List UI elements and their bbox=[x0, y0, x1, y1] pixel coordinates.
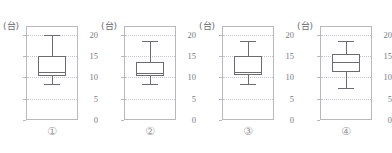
y-tick-label-15: 15 bbox=[370, 52, 392, 61]
panel-caption-2: ② bbox=[124, 126, 176, 137]
gridline-20 bbox=[125, 35, 175, 36]
y-tick-label-0: 0 bbox=[370, 116, 392, 125]
y-tick-label-15: 15 bbox=[174, 52, 196, 61]
min-cap-line bbox=[142, 84, 158, 85]
y-tick-label-0: 0 bbox=[174, 116, 196, 125]
y-tick-mark-0 bbox=[317, 120, 320, 121]
y-tick-mark-20 bbox=[317, 35, 320, 36]
y-tick-mark-10 bbox=[121, 77, 124, 78]
max-cap-line bbox=[338, 41, 354, 42]
y-tick-mark-10 bbox=[219, 77, 222, 78]
median-line bbox=[332, 62, 360, 63]
gridline-5 bbox=[125, 99, 175, 100]
y-tick-mark-5 bbox=[317, 99, 320, 100]
y-tick-mark-20 bbox=[121, 35, 124, 36]
y-tick-mark-10 bbox=[317, 77, 320, 78]
y-tick-mark-0 bbox=[219, 120, 222, 121]
panel-caption-3: ③ bbox=[222, 126, 274, 137]
y-tick-mark-20 bbox=[23, 35, 26, 36]
y-tick-label-20: 20 bbox=[370, 31, 392, 40]
y-axis-unit-label: (台) bbox=[297, 19, 313, 32]
boxplot-panel-1: (台)05101520① bbox=[0, 9, 98, 153]
y-tick-label-0: 0 bbox=[272, 116, 294, 125]
y-tick-label-10: 10 bbox=[174, 73, 196, 82]
lower-whisker-line bbox=[248, 75, 249, 84]
top-cut-text-strip bbox=[0, 0, 391, 9]
gridline-5 bbox=[321, 99, 371, 100]
median-line bbox=[136, 73, 164, 74]
y-tick-label-15: 15 bbox=[76, 52, 98, 61]
upper-whisker-line bbox=[52, 35, 53, 56]
iqr-box bbox=[136, 62, 164, 76]
y-tick-mark-15 bbox=[121, 56, 124, 57]
lower-whisker-line bbox=[346, 72, 347, 88]
median-line bbox=[38, 72, 66, 73]
y-tick-mark-10 bbox=[23, 77, 26, 78]
gridline-5 bbox=[223, 99, 273, 100]
upper-whisker-line bbox=[150, 41, 151, 62]
y-tick-label-20: 20 bbox=[174, 31, 196, 40]
y-tick-mark-15 bbox=[23, 56, 26, 57]
y-tick-mark-5 bbox=[121, 99, 124, 100]
y-axis-unit-label: (台) bbox=[199, 19, 215, 32]
min-cap-line bbox=[240, 84, 256, 85]
y-axis-unit-label: (台) bbox=[3, 19, 19, 32]
min-cap-line bbox=[44, 84, 60, 85]
y-tick-label-10: 10 bbox=[370, 73, 392, 82]
y-tick-label-5: 5 bbox=[272, 95, 294, 104]
median-line bbox=[234, 72, 262, 73]
y-tick-mark-5 bbox=[219, 99, 222, 100]
y-tick-label-20: 20 bbox=[76, 31, 98, 40]
y-tick-label-15: 15 bbox=[272, 52, 294, 61]
lower-whisker-line bbox=[150, 76, 151, 83]
gridline-20 bbox=[223, 35, 273, 36]
boxplot-panel-group: (台)05101520①(台)05101520②(台)05101520③(台)0… bbox=[0, 9, 391, 153]
max-cap-line bbox=[44, 35, 60, 36]
max-cap-line bbox=[142, 41, 158, 42]
y-tick-label-20: 20 bbox=[272, 31, 294, 40]
min-cap-line bbox=[338, 88, 354, 89]
y-tick-mark-20 bbox=[219, 35, 222, 36]
upper-whisker-line bbox=[346, 41, 347, 54]
y-tick-label-5: 5 bbox=[174, 95, 196, 104]
boxplot-panel-4: (台)05101520④ bbox=[294, 9, 392, 153]
y-tick-label-5: 5 bbox=[76, 95, 98, 104]
y-tick-mark-0 bbox=[23, 120, 26, 121]
y-axis-unit-label: (台) bbox=[101, 19, 117, 32]
lower-whisker-line bbox=[52, 76, 53, 84]
max-cap-line bbox=[240, 41, 256, 42]
y-tick-label-10: 10 bbox=[272, 73, 294, 82]
upper-whisker-line bbox=[248, 41, 249, 56]
y-tick-label-0: 0 bbox=[76, 116, 98, 125]
boxplot-panel-2: (台)05101520② bbox=[98, 9, 196, 153]
gridline-5 bbox=[27, 99, 77, 100]
y-tick-mark-15 bbox=[219, 56, 222, 57]
y-tick-mark-0 bbox=[121, 120, 124, 121]
boxplot-panel-3: (台)05101520③ bbox=[196, 9, 294, 153]
y-tick-label-10: 10 bbox=[76, 73, 98, 82]
panel-caption-1: ① bbox=[26, 126, 78, 137]
panel-caption-4: ④ bbox=[320, 126, 372, 137]
gridline-20 bbox=[321, 35, 371, 36]
y-tick-mark-15 bbox=[317, 56, 320, 57]
y-tick-mark-5 bbox=[23, 99, 26, 100]
y-tick-label-5: 5 bbox=[370, 95, 392, 104]
